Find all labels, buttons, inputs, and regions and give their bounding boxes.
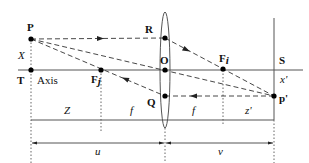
arrow-icon [97,36,104,41]
point-Fj [98,67,103,72]
label-u: u [95,145,101,157]
label-axis: Axis [37,74,58,86]
label-Pprime: p' [279,92,288,104]
label-T: T [17,74,25,86]
ray-focal-in [31,39,165,96]
label-S: S [279,54,285,66]
label-xprime: x' [279,73,288,85]
label-f-right: f [192,104,197,116]
point-P [28,36,33,41]
label-O: O [160,54,169,66]
label-zprime: z' [244,104,252,116]
arrow-icon [32,142,37,145]
arrow-icon [182,46,190,52]
arrow-icon [122,78,130,83]
point-R [162,35,167,40]
label-R: R [145,23,154,35]
label-X: X [17,49,26,61]
arrow-icon [190,94,197,99]
point-T [28,67,33,72]
label-Fi: Fi [219,52,230,66]
ray-chief [31,39,274,96]
point-Fi [220,66,225,71]
arrow-icon [159,142,164,145]
label-Fj: Fj [91,73,102,87]
arrow-icon [166,142,171,145]
label-Z: Z [64,104,71,116]
ray-parallel-out [165,38,274,96]
label-f-left: f [130,104,135,116]
label-Q: Q [147,96,156,108]
point-Q [162,93,167,98]
point-O [162,67,167,72]
arrow-icon [268,142,273,145]
label-P: P [27,21,34,33]
label-v: v [218,145,223,157]
lens-diagram: P T Axis X R O Q Fj Fi S x' p' Z f f z' … [0,0,309,163]
point-Pprime [271,93,276,98]
